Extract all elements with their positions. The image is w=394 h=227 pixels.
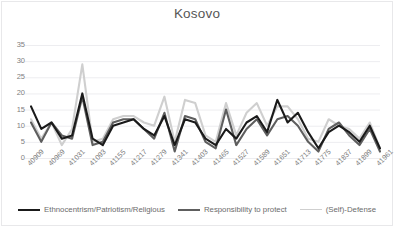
y-tick-label: 20 [7,89,25,97]
chart-container: Kosovo 05101520253035 409094096941031410… [0,0,394,227]
legend-item[interactable]: Ethnocentrism/Patriotism/Religious [18,205,165,214]
plot-area [0,0,394,227]
series-line [31,97,380,152]
legend-label: Responsibility to protect [204,205,287,214]
y-tick-label: 30 [7,57,25,65]
legend-label: (Self)-Defense [326,205,376,214]
legend-label: Ethnocentrism/Patriotism/Religious [44,205,165,214]
gridlines [25,46,380,159]
y-tick-label: 0 [7,154,25,162]
legend-item[interactable]: (Self)-Defense [300,205,376,214]
y-tick-label: 15 [7,106,25,114]
y-tick-label: 35 [7,41,25,49]
y-tick-label: 5 [7,138,25,146]
y-tick-label: 25 [7,73,25,81]
y-tick-label: 10 [7,122,25,130]
chart-legend: Ethnocentrism/Patriotism/ReligiousRespon… [0,205,394,214]
legend-swatch [300,209,322,210]
legend-item[interactable]: Responsibility to protect [178,205,287,214]
legend-swatch [178,209,200,211]
legend-swatch [18,209,40,211]
